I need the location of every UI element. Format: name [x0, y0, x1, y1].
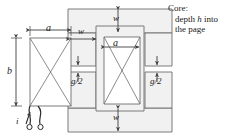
label-b-left: b	[7, 66, 12, 76]
label-w-mid: w	[78, 27, 84, 36]
core-annotation-line2: depth h into	[168, 14, 248, 25]
coil-leads	[27, 106, 43, 130]
left-winding	[30, 38, 71, 106]
label-w-bottom: w	[113, 113, 119, 122]
label-current-i: i	[16, 117, 19, 126]
dimension-b-left	[11, 38, 22, 106]
label-a-top: a	[46, 23, 51, 33]
label-w-top: w	[113, 14, 119, 23]
core-annotation-into-word: into	[202, 14, 218, 24]
figure-container: a b w w w a g/2 g/2 i Core: depth h into…	[0, 0, 248, 139]
current-arrow	[26, 112, 30, 124]
core-annotation-line3: the page	[168, 24, 248, 35]
core-annotation-depth-word: depth	[175, 14, 197, 24]
label-gap-left: g/2	[71, 77, 83, 86]
label-a-center: a	[113, 38, 118, 48]
label-gap-right: g/2	[150, 77, 162, 86]
core-annotation-line1: Core:	[168, 3, 248, 14]
core-annotation: Core: depth h into the page	[168, 3, 248, 35]
